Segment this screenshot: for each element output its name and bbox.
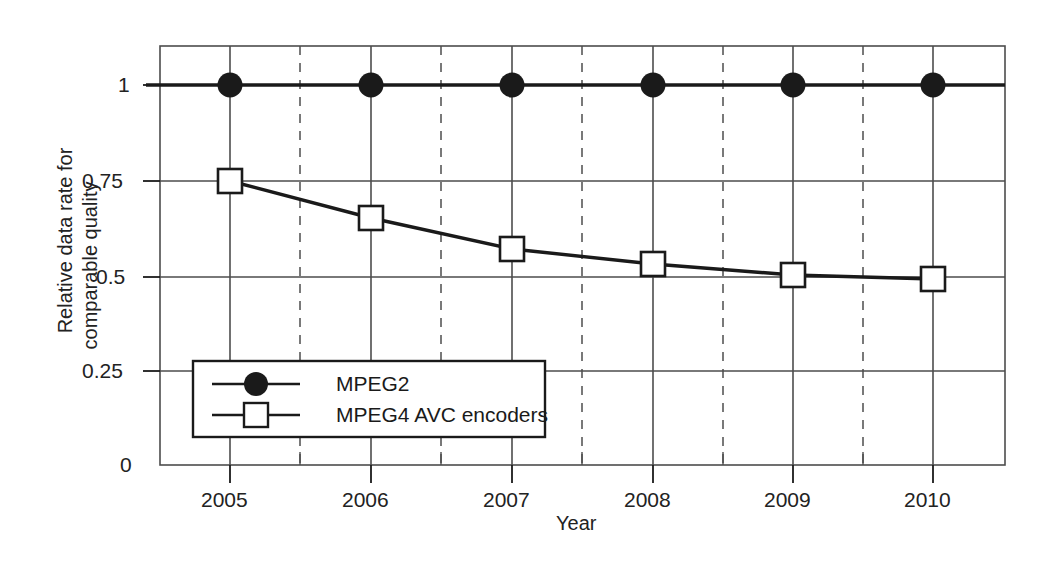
y-tick-label-1: 1 <box>118 73 130 97</box>
chart-figure: 1 0.75 0.5 0.25 0 Relative data rate for… <box>0 0 1044 564</box>
x-tick-label-2007: 2007 <box>483 488 530 512</box>
x-axis-ticks-major <box>230 465 933 483</box>
y-axis-title-line2: comparable quality <box>78 156 103 376</box>
series-mpeg2-marker <box>921 73 946 98</box>
x-tick-label-2008: 2008 <box>624 488 671 512</box>
series-mpeg4avc-marker <box>359 206 383 230</box>
series-mpeg2-marker <box>641 73 666 98</box>
series-mpeg4avc-marker <box>500 237 524 261</box>
series-mpeg2-marker <box>500 73 525 98</box>
x-tick-label-2005: 2005 <box>201 488 248 512</box>
x-tick-label-2010: 2010 <box>904 488 951 512</box>
series-mpeg4avc-marker <box>921 267 945 291</box>
series-mpeg2-marker <box>781 73 806 98</box>
x-tick-label-2006: 2006 <box>342 488 389 512</box>
series-mpeg2-marker <box>359 73 384 98</box>
legend-label-mpeg4avc: MPEG4 AVC encoders <box>336 403 548 427</box>
legend-marker-filled-circle <box>244 372 268 396</box>
series-mpeg4avc-marker <box>781 263 805 287</box>
series-mpeg4avc-marker <box>218 169 242 193</box>
series-mpeg2-marker <box>218 73 243 98</box>
legend-label-mpeg2: MPEG2 <box>336 372 410 396</box>
x-axis-title: Year <box>556 512 596 535</box>
series-mpeg4avc-marker <box>641 252 665 276</box>
y-tick-label-0: 0 <box>120 453 132 477</box>
chart-canvas <box>0 0 1044 564</box>
y-axis-ticks <box>143 85 160 371</box>
y-axis-title-line1: Relative data rate for <box>53 131 78 351</box>
legend-marker-open-square <box>244 403 268 427</box>
x-tick-label-2009: 2009 <box>764 488 811 512</box>
